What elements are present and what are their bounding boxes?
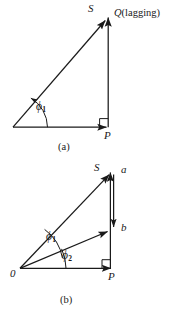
panel-b-base-point-label: P: [108, 271, 115, 282]
panel-a-angle-label: ϕ1: [36, 101, 46, 113]
panel-a-base-point-label: P: [104, 130, 111, 141]
panel-b-vector-b-label: b: [121, 222, 127, 233]
panel-b-caption: (b): [60, 295, 72, 306]
panel-a-caption: (a): [58, 142, 70, 153]
panel-a-q-note: (lagging): [122, 7, 161, 18]
figure-drawing: [0, 0, 174, 316]
figure-container: S Q(lagging) ϕ1 P (a) S a b ϕ1 ϕ2 0 P (b…: [0, 0, 174, 316]
panel-a-q-symbol: Q: [114, 7, 122, 18]
panel-b-angle2-subscript: 2: [68, 254, 72, 263]
panel-a-s-vector: [13, 21, 105, 128]
panel-b-vector-a-label: a: [121, 164, 127, 175]
panel-b-angle1-label: ϕ1: [46, 231, 56, 243]
panel-b-apex-label: S: [94, 162, 100, 173]
panel-a-right-angle-marker: [100, 119, 109, 128]
panel-a-q-label: Q(lagging): [114, 8, 160, 19]
panel-b-origin-label: 0: [10, 268, 16, 279]
panel-a-angle-subscript: 1: [42, 105, 46, 114]
panel-b-right-angle-marker: [102, 260, 110, 269]
panel-b-angle2-label: ϕ2: [62, 250, 72, 262]
panel-a-group: [13, 18, 108, 128]
panel-a-apex-label: S: [88, 3, 94, 14]
panel-b-angle1-subscript: 1: [52, 235, 56, 244]
